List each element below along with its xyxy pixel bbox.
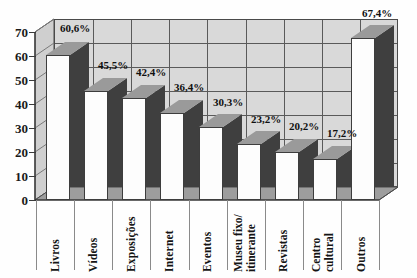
xaxis-label-museu-line2: itinerante — [245, 214, 258, 272]
bar-front-face — [84, 91, 108, 200]
data-label-livros: 60,6% — [60, 22, 90, 34]
xaxis-sep-8 — [341, 200, 342, 270]
data-label-revistas: 20,2% — [289, 120, 319, 132]
bar-revistas[interactable] — [275, 152, 299, 200]
data-label-centro: 17,2% — [327, 127, 357, 139]
xaxis-sep-2 — [112, 200, 113, 270]
bar-exposicoes[interactable] — [122, 98, 146, 200]
xaxis-sep-0 — [36, 200, 37, 270]
xaxis-sep-4 — [189, 200, 190, 270]
bar-front-face — [46, 55, 70, 200]
xaxis-label-centro-line2: cultural — [323, 233, 336, 272]
xaxis-label-videos: Vídeos — [87, 238, 99, 272]
data-label-videos: 45,5% — [98, 59, 128, 71]
bar-internet[interactable] — [160, 113, 184, 200]
bar-front-face — [122, 98, 146, 200]
xaxis-label-eventos: Eventos — [201, 232, 213, 272]
xaxis-sep-6 — [265, 200, 266, 270]
bar-front-face — [237, 144, 261, 200]
bar-chart: 0 10 20 30 40 50 60 70 — [0, 0, 417, 278]
bar-front-face — [275, 152, 299, 200]
bar-videos[interactable] — [84, 91, 108, 200]
data-label-museu: 23,2% — [251, 113, 281, 125]
xaxis-label-exposicoes: Exposições — [125, 216, 137, 272]
xaxis-sep-3 — [150, 200, 151, 270]
xaxis-sep-7 — [303, 200, 304, 270]
bar-side-face — [375, 25, 394, 187]
xaxis-label-outros: Outros — [355, 237, 367, 273]
data-label-eventos: 30,3% — [213, 96, 243, 108]
bar-livros[interactable] — [46, 55, 70, 200]
xaxis-label-centro-cultural: Centro cultural — [310, 233, 335, 272]
bar-front-face — [160, 113, 184, 200]
bar-front-face — [351, 38, 375, 200]
xaxis-sep-1 — [74, 200, 75, 270]
xaxis-sep-9 — [379, 200, 380, 270]
xaxis-label-museu-fixo-itinerante: Museu fixo/ itinerante — [232, 214, 257, 272]
data-label-internet: 36,4% — [174, 81, 204, 93]
bar-outros[interactable] — [351, 38, 375, 200]
data-label-exposicoes: 42,4% — [136, 66, 166, 78]
bar-centro-cultural[interactable] — [313, 159, 337, 200]
data-label-outros: 67,4% — [362, 7, 392, 19]
xaxis-label-centro-line1: Centro — [310, 233, 323, 272]
bar-front-face — [199, 127, 223, 200]
xaxis-label-livros: Livros — [49, 239, 61, 272]
xaxis-label-revistas: Revistas — [277, 230, 289, 273]
bar-eventos[interactable] — [199, 127, 223, 200]
bar-front-face — [313, 159, 337, 200]
xaxis-sep-5 — [227, 200, 228, 270]
xaxis-label-museu-line1: Museu fixo/ — [232, 214, 245, 272]
xaxis-label-internet: Internet — [163, 230, 175, 272]
bar-museu-fixo-itinerante[interactable] — [237, 144, 261, 200]
